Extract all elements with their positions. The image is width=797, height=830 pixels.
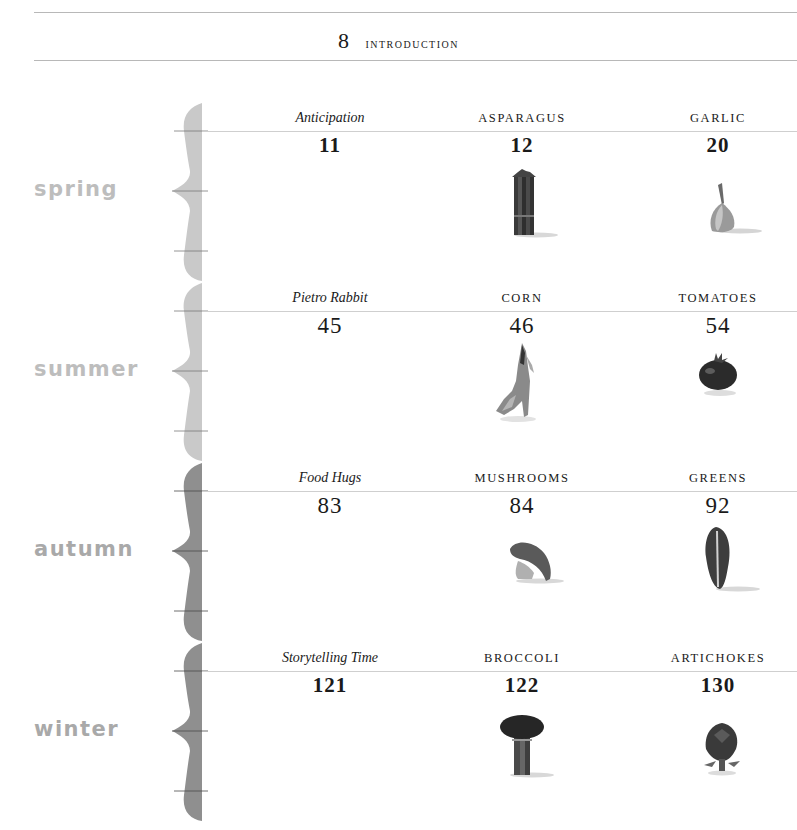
- entry-title: Pietro Rabbit: [240, 283, 420, 311]
- entry-title: CORN: [432, 283, 612, 311]
- section-title: INTRODUCTION: [365, 36, 459, 51]
- toc-entry[interactable]: ARTICHOKES 130: [628, 643, 797, 698]
- tomato-image: [692, 349, 748, 397]
- entry-title: GARLIC: [628, 103, 797, 131]
- brace-icon: [168, 463, 208, 643]
- toc-entry[interactable]: TOMATOES 54: [628, 283, 797, 339]
- entry-page: 130: [628, 673, 797, 698]
- entry-page: 122: [432, 673, 612, 698]
- toc-entry[interactable]: Anticipation 11: [240, 103, 420, 158]
- toc-entry[interactable]: Pietro Rabbit 45: [240, 283, 420, 339]
- garlic-image: [708, 181, 768, 237]
- section-header: 8 INTRODUCTION: [0, 28, 797, 54]
- entry-page: 121: [240, 673, 420, 698]
- broccoli-image: [498, 713, 562, 779]
- entry-title: ASPARAGUS: [432, 103, 612, 131]
- entry-page: 46: [432, 313, 612, 339]
- entry-page: 83: [240, 493, 420, 519]
- toc-entry[interactable]: MUSHROOMS 84: [432, 463, 612, 519]
- mushroom-image: [506, 539, 572, 585]
- entry-title: Anticipation: [240, 103, 420, 131]
- brace-icon: [168, 643, 208, 823]
- entry-title: ARTICHOKES: [628, 643, 797, 671]
- toc-entry[interactable]: Food Hugs 83: [240, 463, 420, 519]
- entry-page: 20: [628, 133, 797, 158]
- brace-icon: [168, 103, 208, 283]
- toc-entry[interactable]: GREENS 92: [628, 463, 797, 519]
- entry-page: 54: [628, 313, 797, 339]
- season-label: winter: [34, 717, 119, 741]
- entry-title: Storytelling Time: [240, 643, 420, 671]
- entry-page: 12: [432, 133, 612, 158]
- entry-title: MUSHROOMS: [432, 463, 612, 491]
- entry-title: BROCCOLI: [432, 643, 612, 671]
- toc-entry[interactable]: ASPARAGUS 12: [432, 103, 612, 158]
- artichoke-image: [700, 721, 748, 777]
- brace-icon: [168, 283, 208, 463]
- entry-page: 11: [240, 133, 420, 158]
- season-label: summer: [34, 357, 139, 381]
- season-summer: summer Pietro Rabbit 45 CORN 46 TOMATOES…: [0, 283, 797, 463]
- season-label: autumn: [34, 537, 134, 561]
- toc-entry[interactable]: CORN 46: [432, 283, 612, 339]
- toc-entry[interactable]: BROCCOLI 122: [432, 643, 612, 698]
- entry-title: GREENS: [628, 463, 797, 491]
- asparagus-image: [506, 169, 566, 239]
- entry-page: 84: [432, 493, 612, 519]
- entry-title: TOMATOES: [628, 283, 797, 311]
- header-bottom-rule: [34, 60, 797, 61]
- season-spring: spring Anticipation 11 ASPARAGUS 12 GARL…: [0, 103, 797, 283]
- greens-image: [700, 527, 764, 593]
- top-rule: [34, 12, 797, 13]
- entry-page: 45: [240, 313, 420, 339]
- section-page-number: 8: [338, 28, 349, 53]
- entry-title: Food Hugs: [240, 463, 420, 491]
- corn-image: [492, 341, 552, 423]
- season-winter: winter Storytelling Time 121 BROCCOLI 12…: [0, 643, 797, 823]
- season-label: spring: [34, 177, 118, 201]
- toc-entry[interactable]: GARLIC 20: [628, 103, 797, 158]
- season-autumn: autumn Food Hugs 83 MUSHROOMS 84 GREENS …: [0, 463, 797, 643]
- toc-entry[interactable]: Storytelling Time 121: [240, 643, 420, 698]
- entry-page: 92: [628, 493, 797, 519]
